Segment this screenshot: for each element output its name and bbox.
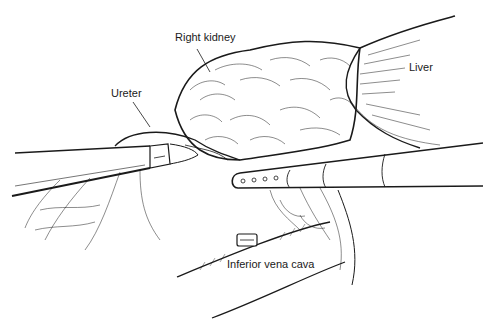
drawing bbox=[0, 0, 493, 332]
illustration: Right kidney Ureter Liver Inferior vena … bbox=[0, 0, 493, 332]
label-ureter: Ureter bbox=[111, 87, 142, 99]
leader-lines bbox=[133, 49, 210, 127]
right-cannula bbox=[232, 143, 483, 188]
left-grasper bbox=[12, 144, 198, 196]
label-right-kidney: Right kidney bbox=[175, 31, 236, 43]
vena-cava-shape bbox=[177, 222, 345, 318]
label-liver: Liver bbox=[409, 61, 433, 73]
liver-shape bbox=[346, 16, 455, 148]
label-inferior-vena-cava: Inferior vena cava bbox=[227, 258, 314, 270]
